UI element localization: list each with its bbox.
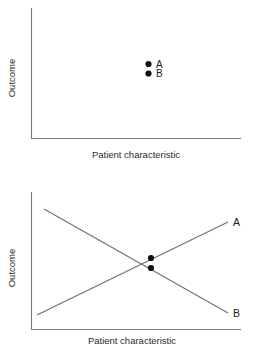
bottom-chart-canvas: A B Patient characteristic Outcome [0, 177, 256, 354]
top-y-axis-label: Outcome [6, 59, 17, 98]
bottom-series-label-b: B [233, 307, 240, 319]
top-panel-scatter-chart: A B Patient characteristic Outcome [0, 0, 256, 177]
top-point-label-b: B [156, 68, 163, 79]
bottom-panel-line-chart: A B Patient characteristic Outcome [0, 177, 256, 354]
bottom-series-line-a [37, 222, 228, 315]
bottom-series-line-b [44, 209, 228, 313]
bottom-data-point-a [148, 255, 154, 261]
top-chart-canvas: A B Patient characteristic Outcome [0, 0, 256, 177]
top-data-point-b [145, 70, 151, 76]
top-data-point-a [145, 61, 151, 67]
bottom-x-axis-label: Patient characteristic [88, 335, 176, 346]
top-x-axis-label: Patient characteristic [92, 149, 180, 160]
bottom-series-label-a: A [233, 216, 240, 228]
bottom-data-point-b [148, 265, 154, 271]
bottom-y-axis-label: Outcome [6, 249, 17, 288]
